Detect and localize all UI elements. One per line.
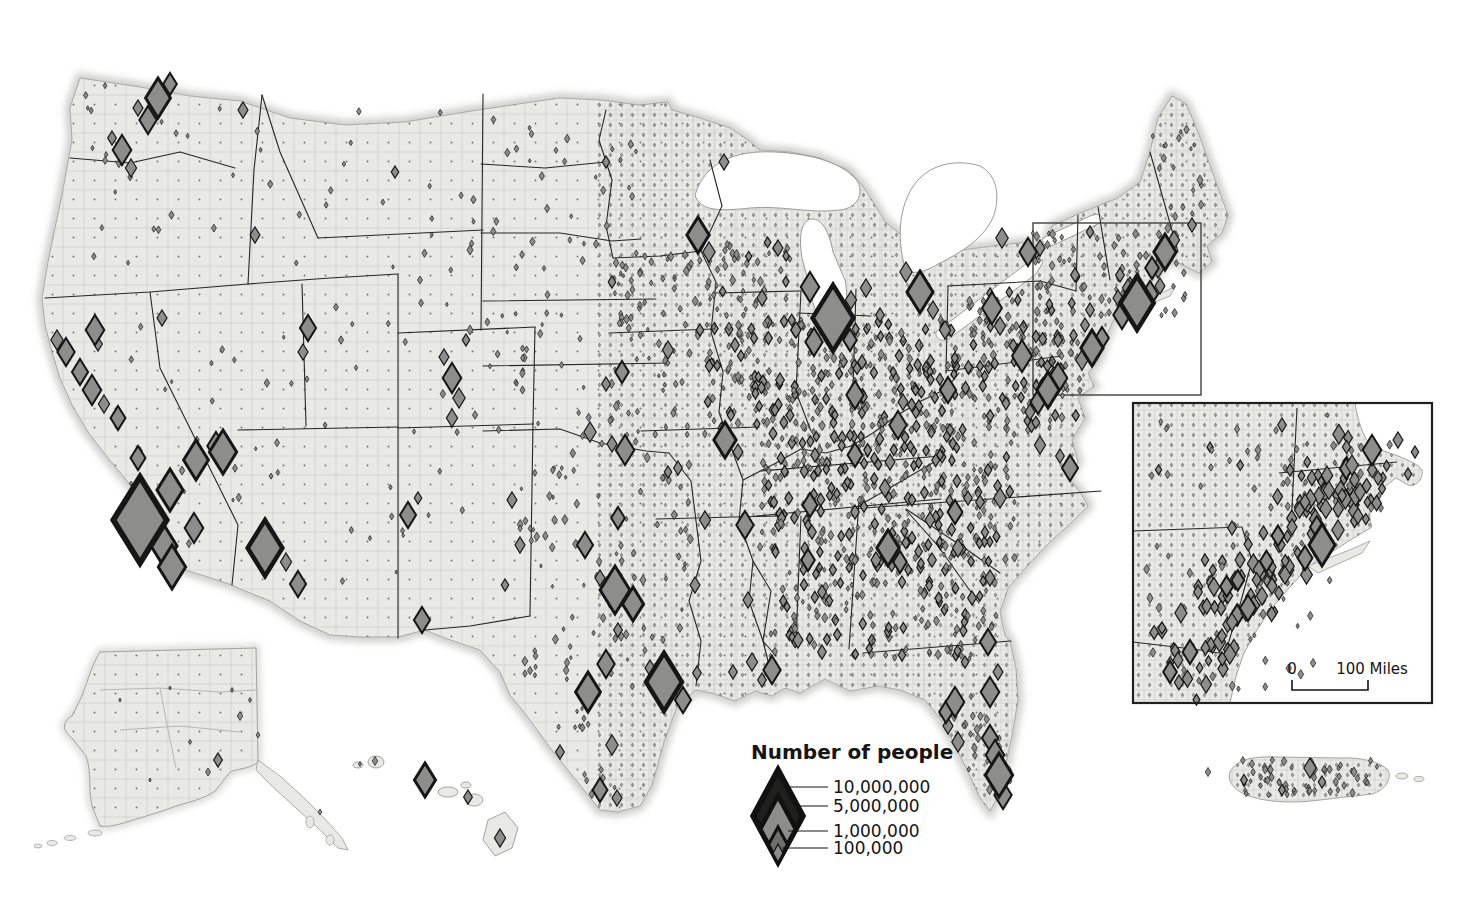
northeast-inset-map: 0 100 Miles — [1133, 403, 1432, 705]
us-county-population-map: 0 100 Miles Number of people 10,000,000 … — [0, 0, 1477, 922]
legend-label-10m: 10,000,000 — [833, 777, 930, 797]
legend-label-100k: 100,000 — [833, 838, 903, 858]
scale-distance-label: 100 Miles — [1336, 660, 1408, 678]
hawaii-inset — [353, 756, 518, 856]
alaska-panhandle — [256, 760, 348, 850]
map-stage: 0 100 Miles Number of people 10,000,000 … — [0, 0, 1477, 922]
map-legend: Number of people 10,000,000 5,000,000 1,… — [751, 740, 953, 862]
legend-label-5m: 5,000,000 — [833, 796, 920, 816]
puerto-rico-inset — [1205, 757, 1424, 802]
alaska-inset — [34, 648, 348, 850]
legend-title: Number of people — [751, 740, 953, 764]
scale-zero-label: 0 — [1287, 660, 1297, 678]
